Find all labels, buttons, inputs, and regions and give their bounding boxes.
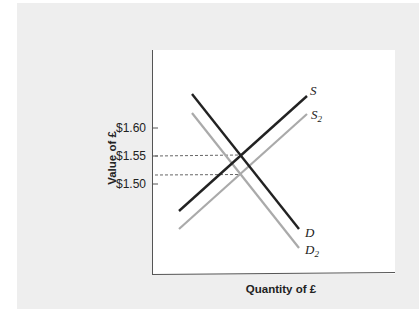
label-s2-sub: 2 bbox=[318, 114, 323, 124]
y-tick-label-160: $1.60 bbox=[116, 121, 146, 135]
label-d2-main: D bbox=[304, 242, 315, 257]
label-d: D bbox=[304, 225, 315, 240]
plot-area bbox=[152, 50, 395, 274]
equilibrium-guide-152 bbox=[155, 175, 240, 176]
y-tick-label-155: $1.55 bbox=[116, 149, 146, 163]
chart-svg: $1.60 $1.55 $1.50 Value of £ Quantity of… bbox=[0, 0, 419, 311]
y-tick-label-150: $1.50 bbox=[116, 177, 146, 191]
y-axis-title: Value of £ bbox=[106, 131, 118, 185]
x-axis-title: Quantity of £ bbox=[246, 283, 317, 295]
label-s: S bbox=[310, 83, 317, 98]
label-d2-sub: 2 bbox=[314, 249, 319, 259]
